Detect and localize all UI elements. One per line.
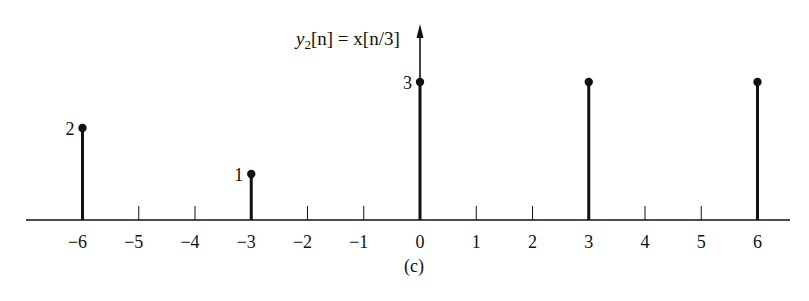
- plot-title: y2[n] = x[n/3]: [294, 28, 400, 52]
- x-tick-label: −6: [68, 232, 87, 252]
- stem-marker: [247, 170, 255, 178]
- x-tick-label: −1: [349, 232, 368, 252]
- x-tick-label: −5: [124, 232, 143, 252]
- x-tick-label: 3: [584, 232, 593, 252]
- stem-marker: [78, 124, 86, 132]
- x-tick-label: 4: [641, 232, 650, 252]
- stem-point: [585, 78, 593, 220]
- stem-point: 1: [234, 165, 255, 220]
- x-tick-label: 0: [416, 232, 425, 252]
- x-tick-label: 5: [697, 232, 706, 252]
- stem-marker: [753, 78, 761, 86]
- stem-point: [753, 78, 761, 220]
- y-axis-arrow-icon: [417, 24, 424, 38]
- stem-plot: −6−5−4−3−2−10123456 213 y2[n] = x[n/3] (…: [0, 0, 809, 301]
- value-label: 2: [66, 119, 75, 139]
- x-tick-label: −3: [237, 232, 256, 252]
- x-tick-label: 1: [472, 232, 481, 252]
- x-tick-label: −2: [293, 232, 312, 252]
- stem-point: 3: [403, 73, 424, 220]
- figure-caption: (c): [404, 256, 424, 277]
- stem-marker: [585, 78, 593, 86]
- x-tick-label: 2: [528, 232, 537, 252]
- stem-marker: [416, 78, 424, 86]
- value-label: 1: [234, 165, 243, 185]
- x-ticks: −6−5−4−3−2−10123456: [68, 206, 762, 252]
- stems: 213: [66, 73, 762, 220]
- x-tick-label: 6: [753, 232, 762, 252]
- x-tick-label: −4: [180, 232, 199, 252]
- axes: [26, 24, 790, 220]
- value-label: 3: [403, 73, 412, 93]
- stem-point: 2: [66, 119, 87, 220]
